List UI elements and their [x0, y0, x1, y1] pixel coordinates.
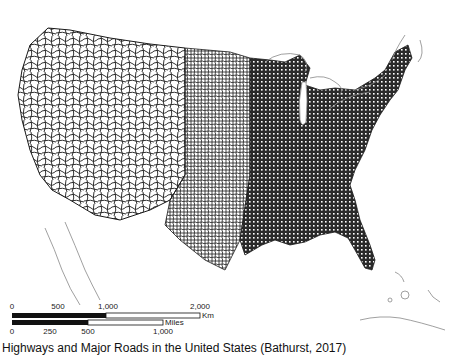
km-bar-empty — [106, 313, 200, 318]
km-unit-label: Km — [202, 312, 214, 320]
miles-bar-filled — [12, 320, 88, 325]
western-states-roads — [18, 28, 185, 220]
miles-tick-500: 500 — [81, 328, 94, 336]
miles-tick-0: 0 — [10, 328, 14, 336]
km-tick-1000: 1,000 — [98, 303, 118, 311]
eastern-states-roads — [240, 45, 412, 270]
miles-unit-label: Miles — [165, 319, 184, 327]
figure-caption: Highways and Major Roads in the United S… — [2, 341, 346, 355]
miles-tick-250: 250 — [43, 328, 56, 336]
miles-bar-empty — [88, 320, 163, 325]
km-tick-0: 0 — [10, 303, 14, 311]
km-tick-500: 500 — [51, 303, 64, 311]
km-tick-2000: 2,000 — [190, 303, 210, 311]
km-bar-filled — [12, 313, 106, 318]
miles-tick-1000: 1,000 — [153, 328, 173, 336]
